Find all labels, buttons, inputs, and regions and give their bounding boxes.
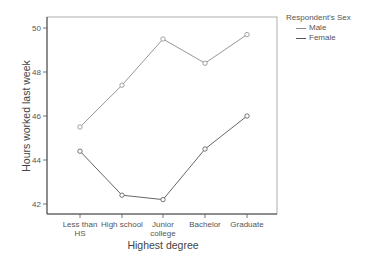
y-axis: 4244464850 <box>32 24 47 209</box>
legend: Respondent's Sex Male Female <box>286 13 351 43</box>
y-tick-label: 48 <box>32 68 41 77</box>
y-tick-label: 46 <box>32 112 41 121</box>
data-point-marker <box>78 149 82 153</box>
x-tick-label: Graduate <box>230 220 264 229</box>
data-point-marker <box>120 193 124 197</box>
x-tick-label: college <box>150 229 176 238</box>
series-line <box>80 35 247 127</box>
data-point-marker <box>161 37 165 41</box>
legend-label-female: Female <box>309 33 336 43</box>
legend-item-female: Female <box>286 33 351 43</box>
data-point-marker <box>245 32 249 36</box>
series-line <box>80 116 247 200</box>
data-point-marker <box>161 197 165 201</box>
legend-label-male: Male <box>309 23 326 33</box>
data-point-marker <box>120 83 124 87</box>
x-axis: Less thanHSHigh schoolJuniorcollegeBache… <box>63 214 265 238</box>
legend-swatch-female <box>296 38 306 39</box>
x-tick-label: Bachelor <box>189 220 221 229</box>
x-axis-title: Highest degree <box>127 239 198 251</box>
legend-title: Respondent's Sex <box>286 13 351 23</box>
legend-item-male: Male <box>286 23 351 33</box>
data-point-marker <box>203 147 207 151</box>
data-series <box>78 32 249 201</box>
y-axis-title: Hours worked last week <box>20 60 32 172</box>
plot-frame <box>47 17 277 214</box>
data-point-marker <box>203 61 207 65</box>
legend-swatch-male <box>296 28 306 29</box>
x-tick-label: High school <box>101 220 143 229</box>
y-tick-label: 50 <box>32 24 41 33</box>
series-male <box>78 32 249 129</box>
data-point-marker <box>245 114 249 118</box>
y-tick-label: 44 <box>32 156 41 165</box>
x-tick-label: HS <box>74 229 85 238</box>
y-tick-label: 42 <box>32 200 41 209</box>
series-female <box>78 114 249 202</box>
data-point-marker <box>78 125 82 129</box>
